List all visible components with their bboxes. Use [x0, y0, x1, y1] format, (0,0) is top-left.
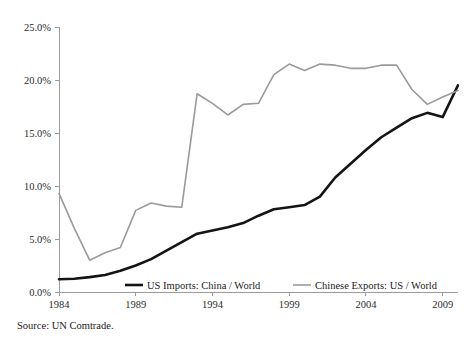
series-line-chinese-exports: [59, 64, 458, 260]
figure: 0.0%5.0%10.0%15.0%20.0%25.0% 19841989199…: [0, 0, 469, 342]
x-tick-label: 1984: [49, 299, 71, 310]
source-note: Source: UN Comtrade.: [17, 320, 114, 331]
series-line-us-imports: [59, 85, 458, 279]
y-tick-label: 10.0%: [24, 181, 51, 192]
legend-label: Chinese Exports: US / World: [315, 280, 438, 291]
legend-label: US Imports: China / World: [147, 280, 261, 291]
chart-legend: US Imports: China / WorldChinese Exports…: [125, 280, 438, 291]
x-tick-label: 1999: [279, 299, 300, 310]
x-tick-label: 1994: [202, 299, 224, 310]
x-tick-label: 2004: [355, 299, 377, 310]
legend-item-chinese-exports: Chinese Exports: US / World: [293, 280, 438, 291]
x-axis: 198419891994199920042009: [49, 292, 459, 310]
legend-item-us-imports: US Imports: China / World: [125, 280, 261, 291]
y-tick-label: 15.0%: [24, 128, 51, 139]
y-tick-label: 20.0%: [24, 75, 51, 86]
y-tick-label: 0.0%: [29, 287, 51, 298]
series-lines: [59, 64, 458, 279]
y-tick-label: 25.0%: [24, 22, 51, 33]
y-axis: 0.0%5.0%10.0%15.0%20.0%25.0%: [24, 22, 59, 298]
x-tick-label: 1989: [125, 299, 146, 310]
x-tick-label: 2009: [432, 299, 453, 310]
line-chart: 0.0%5.0%10.0%15.0%20.0%25.0% 19841989199…: [0, 0, 469, 342]
y-tick-label: 5.0%: [29, 234, 51, 245]
